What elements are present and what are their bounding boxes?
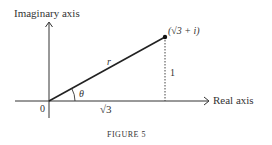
origin-label: 0 [40,103,45,114]
y-axis-label: Imaginary axis [14,7,80,19]
height-label: 1 [170,67,175,78]
x-axis-label: Real axis [213,94,254,106]
complex-plane-diagram [0,0,272,145]
radius-line [49,37,165,101]
point-marker [163,35,167,39]
point-label: (√3 + i) [168,25,200,36]
base-label: √3 [100,103,112,115]
figure-caption: FIGURE 5 [107,130,146,139]
angle-arc [72,89,75,101]
radius-label: r [107,56,111,67]
angle-label: θ [79,88,84,99]
